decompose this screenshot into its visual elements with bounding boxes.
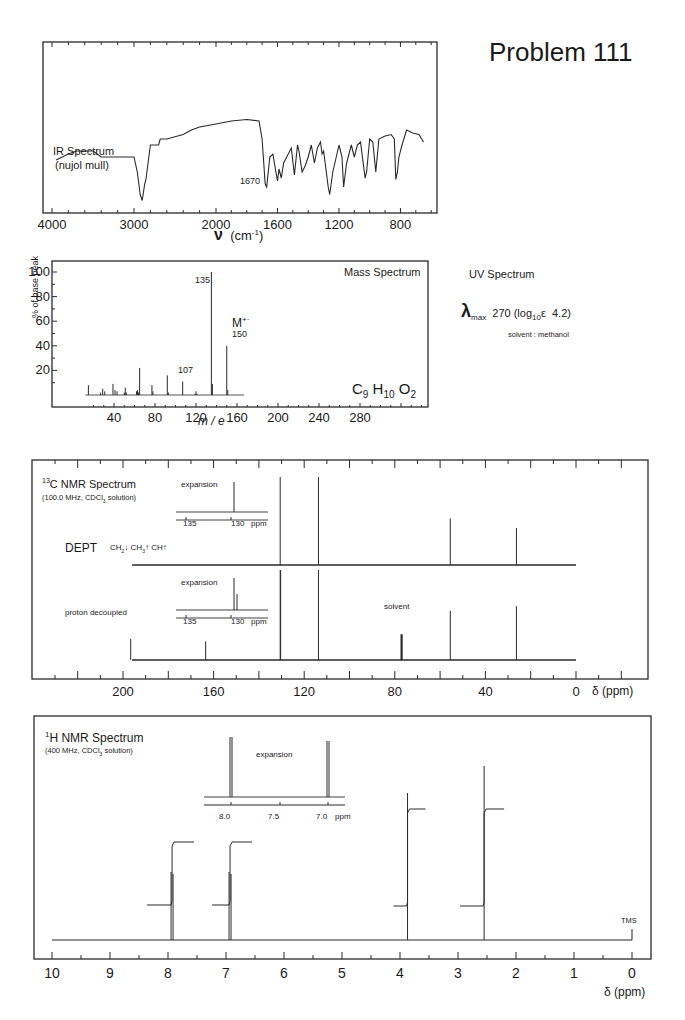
ir-x-tick-3000: 3000: [120, 217, 149, 232]
uv-lambda-value: 270: [492, 307, 510, 319]
h1-exp-tick-7-5: 7.5: [268, 812, 279, 821]
mass-y-tick-60: 60: [36, 313, 50, 328]
c13-exp-unit-dept: ppm: [251, 519, 267, 528]
mass-peak-label-150: 150: [232, 329, 247, 339]
c13-expansion-label-decoupled: expansion: [181, 578, 217, 587]
ir-peak-label: 1670: [240, 176, 260, 186]
h1-x-tick-7: 7: [222, 965, 230, 981]
ir-sublabel: (nujol mull): [55, 159, 109, 171]
mass-title: Mass Spectrum: [344, 266, 420, 278]
c13-x-axis-label: δ (ppm): [592, 684, 633, 698]
mass-y-tick-40: 40: [36, 338, 50, 353]
uv-log-eps-value: 4.2: [552, 307, 567, 319]
uv-solvent: solvent : methanol: [508, 330, 569, 339]
h1-x-tick-2: 2: [512, 965, 520, 981]
mass-y-tick-100: 100: [28, 264, 50, 279]
integral-curve: [394, 809, 426, 906]
c13-x-tick-160: 160: [203, 684, 225, 699]
c13-conditions: (100.0 MHz, CDCl3 solution): [42, 493, 136, 504]
c13-exp-unit-dec: ppm: [251, 617, 267, 626]
c13-exp-tick-135-dept: 135: [183, 519, 196, 528]
mass-x-tick-160: 160: [226, 410, 248, 425]
ir-x-tick-800: 800: [390, 217, 412, 232]
mass-molecular-ion-label: M+·: [232, 315, 249, 330]
h1-x-tick-4: 4: [396, 965, 404, 981]
h1-exp-tick-7: 7.0: [316, 812, 327, 821]
dept-legend: CH2↓ CH3↑ CH↑: [110, 543, 167, 554]
h1-title: 1H NMR Spectrum: [45, 730, 143, 745]
h1-x-tick-5: 5: [338, 965, 346, 981]
proton-decoupled-label: proton decoupled: [65, 608, 127, 617]
mass-y-tick-20: 20: [36, 362, 50, 377]
h1-exp-unit: ppm: [335, 812, 351, 821]
ir-x-tick-4000: 4000: [38, 217, 67, 232]
ir-trace: [56, 120, 423, 201]
c13-exp-tick-135-dec: 135: [183, 617, 196, 626]
c13-x-tick-80: 80: [388, 684, 402, 699]
dept-label: DEPT: [65, 541, 97, 555]
lambda-symbol: λ: [461, 301, 471, 321]
c13-exp-tick-130-dec: 130: [231, 617, 244, 626]
solvent-label: solvent: [384, 602, 409, 611]
mass-x-axis-label: m / e: [198, 414, 225, 428]
h1-x-tick-10: 10: [44, 965, 60, 981]
h1-conditions: (400 MHz, CDCl3 solution): [45, 746, 133, 757]
h1-expansion-label: expansion: [256, 750, 292, 759]
c13-expansion-label-dept: expansion: [181, 480, 217, 489]
tms-label: TMS: [621, 916, 637, 925]
mass-x-tick-280: 280: [349, 410, 371, 425]
c13-x-tick-40: 40: [478, 684, 492, 699]
h1-exp-tick-8: 8.0: [219, 812, 230, 821]
c13-x-tick-200: 200: [112, 684, 134, 699]
integral-curve: [460, 809, 504, 906]
c13-exp-tick-130-dept: 130: [231, 519, 244, 528]
mass-peak-label-107: 107: [178, 365, 193, 375]
uv-lambda-max: λmax 270 (log10ε 4.2): [461, 301, 571, 322]
ir-x-axis-label: ν (cm-1): [214, 226, 263, 244]
ir-x-tick-1200: 1200: [324, 217, 353, 232]
molecular-formula: C9 H10 O2: [352, 380, 416, 400]
h1-x-tick-3: 3: [454, 965, 462, 981]
h1-x-axis-label: δ (ppm): [604, 985, 645, 999]
mass-x-tick-40: 40: [107, 410, 121, 425]
ir-label: IR Spectrum: [53, 145, 114, 157]
uv-title: UV Spectrum: [469, 268, 534, 280]
h1-x-tick-1: 1: [570, 965, 578, 981]
h1-x-tick-6: 6: [280, 965, 288, 981]
c13-x-tick-120: 120: [293, 684, 315, 699]
c13-title: 13C NMR Spectrum: [42, 477, 136, 490]
mass-x-tick-240: 240: [308, 410, 330, 425]
mass-peak-label-135: 135: [195, 275, 210, 285]
mass-x-tick-80: 80: [148, 410, 162, 425]
c13-x-tick-0: 0: [572, 684, 579, 699]
mass-x-tick-200: 200: [267, 410, 289, 425]
ir-spectrum-chart: [43, 42, 437, 213]
h1-x-tick-0: 0: [628, 965, 636, 981]
integral-curve: [212, 842, 252, 905]
h1-x-tick-9: 9: [106, 965, 114, 981]
mass-y-tick-80: 80: [36, 289, 50, 304]
ir-x-tick-1600: 1600: [263, 217, 292, 232]
h1-x-tick-8: 8: [164, 965, 172, 981]
